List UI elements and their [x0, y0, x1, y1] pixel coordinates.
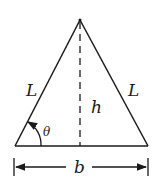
left-side-label: L	[25, 80, 37, 100]
height-label: h	[91, 97, 102, 117]
apex-point	[79, 19, 82, 22]
triangle-diagram: L L h θ b	[0, 0, 156, 184]
angle-arc	[28, 122, 41, 146]
right-side-label: L	[127, 80, 139, 100]
angle-label: θ	[43, 125, 51, 139]
base-label: b	[74, 157, 85, 177]
